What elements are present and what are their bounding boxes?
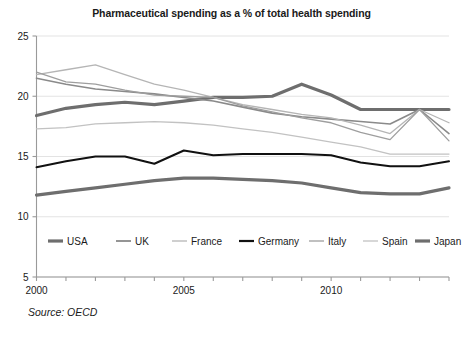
x-tick-labels: 200020052010 (25, 277, 449, 296)
x-tick-label: 2000 (25, 285, 48, 296)
x-tick-label: 2010 (320, 285, 343, 296)
chart-container: Pharmaceutical spending as a % of total … (0, 0, 463, 337)
data-series-group (37, 65, 450, 195)
legend-label-germany: Germany (258, 236, 299, 247)
y-tick-label: 20 (17, 91, 29, 102)
y-tick-labels: 510152025 (17, 31, 36, 283)
legend-label-japan: Japan (434, 236, 461, 247)
legend-label-italy: Italy (328, 236, 346, 247)
y-tick-label: 15 (17, 151, 29, 162)
legend-label-spain: Spain (382, 236, 408, 247)
x-tick-label: 2005 (173, 285, 196, 296)
legend-label-uk: UK (135, 236, 149, 247)
source-note: Source: OECD (28, 306, 97, 318)
y-tick-label: 10 (17, 211, 29, 222)
series-line-japan (37, 178, 450, 195)
series-line-spain (37, 122, 450, 155)
y-tick-label: 5 (23, 272, 29, 283)
chart-legend: USAUKFranceGermanyItalySpainJapan (48, 236, 461, 247)
legend-label-usa: USA (67, 236, 88, 247)
series-line-italy (37, 72, 450, 141)
legend-label-france: France (191, 236, 223, 247)
y-tick-label: 25 (17, 31, 29, 42)
chart-plot: 510152025 200020052010 USAUKFranceGerman… (0, 0, 463, 337)
